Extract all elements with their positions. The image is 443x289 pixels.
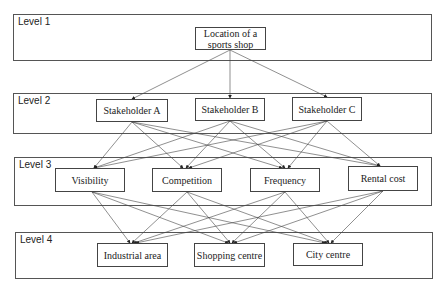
node-stakeholder-b: Stakeholder B	[195, 98, 265, 121]
node-label: Location of a sports shop	[196, 28, 265, 50]
node-label: City centre	[306, 249, 350, 260]
node-label: Shopping centre	[197, 250, 262, 261]
node-label: Industrial area	[104, 250, 161, 261]
node-stakeholder-c: Stakeholder C	[292, 97, 362, 121]
hierarchy-diagram: Level 1 Level 2 Level 3 Level 4 Location…	[0, 0, 443, 289]
node-rental-cost: Rental cost	[348, 166, 418, 191]
node-label: Frequency	[264, 175, 306, 186]
node-location-of-sports-shop: Location of a sports shop	[195, 27, 266, 50]
node-label: Visibility	[71, 175, 108, 186]
node-industrial-area: Industrial area	[97, 243, 168, 267]
node-frequency: Frequency	[250, 168, 320, 192]
node-label: Stakeholder A	[104, 105, 161, 116]
node-competition: Competition	[152, 168, 222, 192]
node-label: Stakeholder B	[202, 104, 259, 115]
node-label: Competition	[162, 175, 212, 186]
node-visibility: Visibility	[55, 168, 125, 192]
node-stakeholder-a: Stakeholder A	[96, 99, 168, 122]
node-city-centre: City centre	[293, 243, 363, 266]
node-label: Stakeholder C	[299, 104, 356, 115]
node-label: Rental cost	[361, 173, 406, 184]
node-shopping-centre: Shopping centre	[194, 243, 265, 267]
